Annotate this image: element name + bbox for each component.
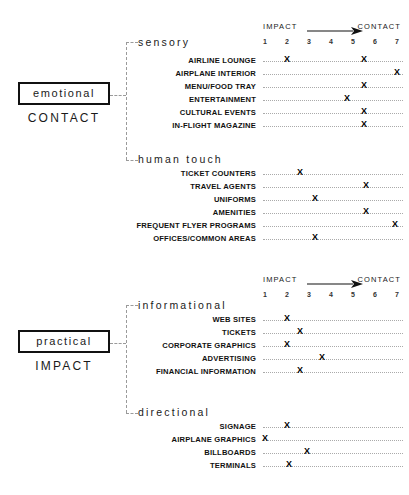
data-mark: X: [312, 192, 318, 205]
scale-tick-1: 1: [263, 291, 267, 298]
data-mark: X: [363, 179, 369, 192]
scale-tick-4: 4: [329, 291, 333, 298]
scale-row-top: 1 2 3 4 5 6 7: [263, 38, 401, 49]
table-row: IN-FLIGHT MAGAZINE X: [263, 119, 409, 132]
data-mark: X: [284, 312, 290, 325]
scale-tick-2: 2: [285, 291, 289, 298]
scale-tick-7: 7: [395, 291, 399, 298]
table-row: AIRPLANE GRAPHICS X: [263, 433, 409, 446]
item-track: [263, 453, 403, 454]
data-mark: X: [284, 53, 290, 66]
item-track: [263, 359, 403, 360]
item-label: BILLBOARDS: [204, 446, 256, 459]
item-label: FINANCIAL INFORMATION: [156, 365, 256, 378]
category-block-emotional: emotional CONTACT: [18, 82, 110, 125]
tree-spine-practical: [126, 305, 127, 413]
category-sub-emotional: CONTACT: [18, 111, 110, 125]
data-mark: X: [361, 105, 367, 118]
item-label: CULTURAL EVENTS: [180, 106, 256, 119]
axis-label-contact: CONTACT: [358, 275, 401, 284]
group-title-human-touch: human touch: [138, 153, 223, 165]
item-label: ENTERTAINMENT: [189, 93, 256, 106]
table-row: CORPORATE GRAPHICS X: [263, 339, 409, 352]
tree-connector-human-touch: [126, 160, 138, 161]
item-label: TRAVEL AGENTS: [190, 180, 256, 193]
item-label: CORPORATE GRAPHICS: [162, 339, 256, 352]
item-track: [263, 187, 403, 188]
table-row: TRAVEL AGENTS X: [263, 180, 409, 193]
item-label: FREQUENT FLYER PROGRAMS: [137, 219, 257, 232]
item-track: [263, 239, 403, 240]
data-mark: X: [312, 231, 318, 244]
item-track: [263, 113, 403, 114]
table-row: FREQUENT FLYER PROGRAMS X: [263, 219, 409, 232]
tree-connector-box-emotional: [110, 95, 126, 96]
table-row: SIGNAGE X: [263, 420, 409, 433]
item-label: UNIFORMS: [214, 193, 256, 206]
axis-label-contact: CONTACT: [358, 22, 401, 31]
scale-tick-5: 5: [351, 291, 355, 298]
scale-row-bottom: 1 2 3 4 5 6 7: [263, 291, 401, 302]
data-mark: X: [363, 205, 369, 218]
chart-axis-header-top: IMPACT CONTACT: [263, 22, 401, 36]
item-track: [263, 440, 403, 441]
data-mark: X: [344, 92, 350, 105]
item-track: [263, 226, 403, 227]
data-mark: X: [361, 79, 367, 92]
item-label: AIRPLANE INTERIOR: [175, 67, 256, 80]
category-sub-practical: IMPACT: [18, 359, 110, 373]
table-row: ENTERTAINMENT X: [263, 93, 409, 106]
tree-spine-emotional: [126, 42, 127, 160]
scale-tick-3: 3: [307, 38, 311, 45]
table-row: AIRLINE LOUNGE X X: [263, 54, 409, 67]
table-row: BILLBOARDS X: [263, 446, 409, 459]
item-track: [263, 174, 403, 175]
group-title-informational: informational: [138, 299, 227, 311]
axis-arrow-icon: [307, 280, 365, 287]
item-track: [263, 372, 403, 373]
data-mark: X: [394, 66, 400, 79]
table-row: UNIFORMS X: [263, 193, 409, 206]
data-mark: X: [392, 218, 398, 231]
data-mark: X: [297, 325, 303, 338]
table-row: MENU/FOOD TRAY X: [263, 80, 409, 93]
item-track: [263, 333, 403, 334]
data-mark: X: [284, 419, 290, 432]
table-row: OFFICES/COMMON AREAS X: [263, 232, 409, 245]
table-row: TICKET COUNTERS X: [263, 167, 409, 180]
table-row: ADVERTISING X: [263, 352, 409, 365]
scale-tick-7: 7: [395, 38, 399, 45]
axis-arrow-icon: [307, 27, 365, 34]
data-mark: X: [297, 166, 303, 179]
table-row: AMENITIES X: [263, 206, 409, 219]
category-box-practical: practical: [18, 330, 110, 353]
item-label: TERMINALS: [210, 459, 256, 472]
item-track: [263, 126, 403, 127]
impact-contact-diagram: emotional CONTACT IMPACT CONTACT 1 2 3 4…: [0, 0, 409, 495]
item-label: ADVERTISING: [202, 352, 256, 365]
item-label: OFFICES/COMMON AREAS: [153, 232, 256, 245]
table-row: WEB SITES X: [263, 313, 409, 326]
data-mark: X: [304, 445, 310, 458]
group-title-sensory: sensory: [138, 36, 190, 48]
tree-connector-directional: [126, 413, 138, 414]
item-label: IN-FLIGHT MAGAZINE: [172, 119, 256, 132]
item-track: [263, 213, 403, 214]
item-label: SIGNAGE: [220, 420, 256, 433]
data-mark: X: [297, 364, 303, 377]
table-row: TERMINALS X: [263, 459, 409, 472]
scale-tick-4: 4: [329, 38, 333, 45]
category-box-emotional: emotional: [18, 82, 110, 105]
data-mark: X: [361, 53, 367, 66]
item-label: TICKETS: [222, 326, 256, 339]
category-block-practical: practical IMPACT: [18, 330, 110, 373]
table-row: CULTURAL EVENTS X: [263, 106, 409, 119]
scale-tick-5: 5: [351, 38, 355, 45]
item-label: AMENITIES: [213, 206, 256, 219]
table-row: FINANCIAL INFORMATION X: [263, 365, 409, 378]
table-row: AIRPLANE INTERIOR X: [263, 67, 409, 80]
data-mark: X: [286, 458, 292, 471]
data-mark: X: [262, 432, 268, 445]
tree-connector-sensory: [126, 42, 138, 43]
item-label: AIRLINE LOUNGE: [188, 54, 256, 67]
